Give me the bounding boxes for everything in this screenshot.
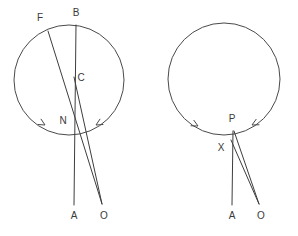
point-label-O-right: O — [257, 210, 265, 221]
point-label-C: C — [77, 72, 84, 83]
segment-P-O — [234, 131, 259, 204]
arc-arrow-left — [38, 119, 45, 125]
figure-root: F B C N A O P X A O — [0, 0, 298, 236]
point-label-N: N — [59, 115, 66, 126]
point-label-X: X — [218, 142, 225, 153]
point-label-A-right: A — [229, 210, 236, 221]
left-circle-diagram: F B C N A O — [14, 7, 124, 221]
right-circle — [168, 23, 280, 135]
arc-arrow-right — [96, 119, 103, 125]
left-circle — [14, 25, 124, 135]
point-label-B: B — [73, 7, 80, 18]
point-label-O-left: O — [100, 210, 108, 221]
segment-F-O — [48, 31, 102, 204]
right-circle-diagram: P X A O — [168, 23, 280, 221]
segment-X-O — [231, 140, 259, 204]
geometry-canvas: F B C N A O P X A O — [0, 0, 298, 236]
point-label-F: F — [37, 12, 43, 23]
point-label-P: P — [229, 113, 236, 124]
segment-C-O — [74, 77, 102, 204]
point-label-A-left: A — [71, 210, 78, 221]
